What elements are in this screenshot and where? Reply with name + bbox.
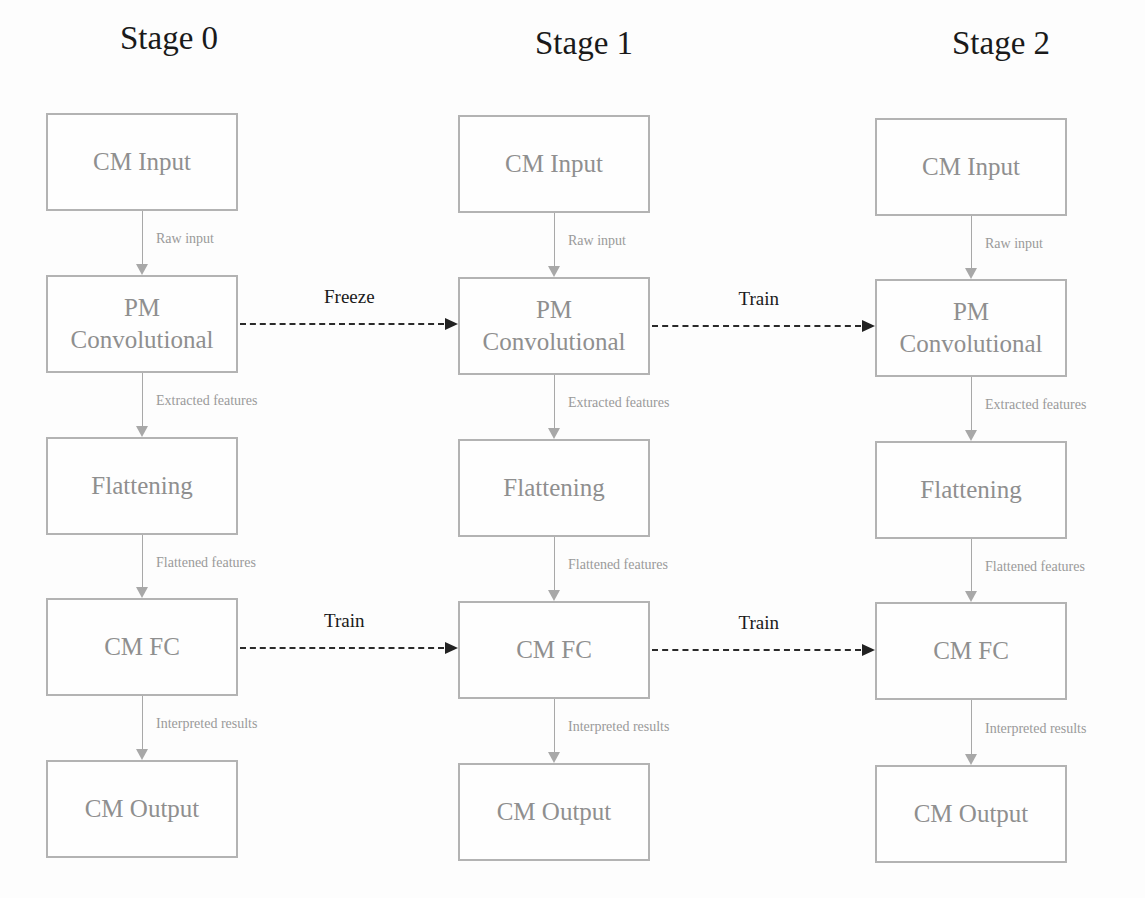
- box-label-line: Convolutional: [899, 328, 1042, 360]
- edge-line: [142, 535, 143, 588]
- box-label-line: CM Output: [85, 793, 200, 825]
- edge-line: [554, 537, 555, 591]
- box-label: CM Output: [497, 796, 612, 828]
- box-label-line: PM: [482, 294, 625, 326]
- box-label: Flattening: [503, 472, 604, 504]
- box-label: CM Output: [914, 798, 1029, 830]
- box-label: CM FC: [104, 631, 180, 663]
- stage-0-box-cm-input: CM Input: [46, 113, 238, 211]
- stage-title-2: Stage 2: [952, 25, 1050, 62]
- arrow-down-icon: [136, 587, 148, 598]
- arrow-down-icon: [965, 754, 977, 765]
- box-label-line: CM Input: [505, 148, 603, 180]
- box-label-line: Flattening: [503, 472, 604, 504]
- box-label-line: CM Input: [93, 146, 191, 178]
- edge-label: Raw input: [985, 236, 1043, 252]
- edge-label: Extracted features: [156, 393, 257, 409]
- edge-label: Flattened features: [985, 559, 1085, 575]
- transition-label: Train: [324, 610, 364, 632]
- transition-line: [652, 325, 861, 327]
- box-label: CM Input: [505, 148, 603, 180]
- arrow-down-icon: [548, 752, 560, 763]
- box-label: PMConvolutional: [482, 294, 625, 358]
- transition-line: [240, 323, 444, 325]
- stage-title-0: Stage 0: [120, 20, 218, 57]
- transition-line: [652, 649, 861, 651]
- edge-line: [142, 373, 143, 427]
- box-label-line: CM FC: [104, 631, 180, 663]
- edge-line: [554, 375, 555, 429]
- edge-label: Interpreted results: [568, 719, 669, 735]
- stage-title-1: Stage 1: [535, 25, 633, 62]
- arrow-right-icon: [862, 644, 875, 656]
- arrow-down-icon: [965, 591, 977, 602]
- box-label: CM Output: [85, 793, 200, 825]
- box-label: CM FC: [933, 635, 1009, 667]
- arrow-down-icon: [136, 426, 148, 437]
- edge-label: Raw input: [568, 233, 626, 249]
- edge-line: [971, 700, 972, 755]
- box-label: Flattening: [920, 474, 1021, 506]
- arrow-down-icon: [965, 430, 977, 441]
- edge-label: Extracted features: [568, 395, 669, 411]
- stage-2-box-cm-output: CM Output: [875, 765, 1067, 863]
- box-label-line: Convolutional: [482, 326, 625, 358]
- edge-label: Flattened features: [568, 557, 668, 573]
- box-label: CM FC: [516, 634, 592, 666]
- stage-1-box-pm-convolutional: PMConvolutional: [458, 277, 650, 375]
- transition-line: [240, 647, 444, 649]
- box-label: CM Input: [93, 146, 191, 178]
- stage-0-box-pm-convolutional: PMConvolutional: [46, 275, 238, 373]
- stage-1-box-cm-fc: CM FC: [458, 601, 650, 699]
- stage-2-box-cm-fc: CM FC: [875, 602, 1067, 700]
- stage-2-box-pm-convolutional: PMConvolutional: [875, 279, 1067, 377]
- edge-label: Interpreted results: [156, 716, 257, 732]
- edge-label: Raw input: [156, 231, 214, 247]
- arrow-down-icon: [548, 428, 560, 439]
- edge-label: Interpreted results: [985, 721, 1086, 737]
- box-label-line: Flattening: [920, 474, 1021, 506]
- box-label-line: PM: [899, 296, 1042, 328]
- stage-0-box-flattening: Flattening: [46, 437, 238, 535]
- box-label-line: PM: [70, 292, 213, 324]
- transition-label: Freeze: [324, 286, 375, 308]
- arrow-right-icon: [445, 642, 458, 654]
- stage-2-box-cm-input: CM Input: [875, 118, 1067, 216]
- box-label-line: Flattening: [91, 470, 192, 502]
- edge-label: Flattened features: [156, 555, 256, 571]
- arrow-right-icon: [862, 320, 875, 332]
- arrow-down-icon: [548, 590, 560, 601]
- arrow-down-icon: [965, 268, 977, 279]
- edge-line: [971, 216, 972, 269]
- stage-1-box-cm-input: CM Input: [458, 115, 650, 213]
- edge-line: [971, 539, 972, 592]
- box-label: CM Input: [922, 151, 1020, 183]
- edge-line: [142, 211, 143, 265]
- edge-label: Extracted features: [985, 397, 1086, 413]
- box-label-line: CM Output: [914, 798, 1029, 830]
- box-label-line: CM FC: [933, 635, 1009, 667]
- box-label-line: CM Output: [497, 796, 612, 828]
- box-label: PMConvolutional: [899, 296, 1042, 360]
- arrow-right-icon: [445, 318, 458, 330]
- arrow-down-icon: [136, 264, 148, 275]
- stage-0-box-cm-output: CM Output: [46, 760, 238, 858]
- edge-line: [971, 377, 972, 431]
- transition-label: Train: [739, 288, 779, 310]
- arrow-down-icon: [136, 749, 148, 760]
- transition-label: Train: [739, 612, 779, 634]
- stage-1-box-flattening: Flattening: [458, 439, 650, 537]
- box-label: PMConvolutional: [70, 292, 213, 356]
- arrow-down-icon: [548, 266, 560, 277]
- edge-line: [142, 696, 143, 750]
- stage-1-box-cm-output: CM Output: [458, 763, 650, 861]
- stage-2-box-flattening: Flattening: [875, 441, 1067, 539]
- edge-line: [554, 699, 555, 753]
- stage-0-box-cm-fc: CM FC: [46, 598, 238, 696]
- edge-line: [554, 213, 555, 267]
- box-label: Flattening: [91, 470, 192, 502]
- box-label-line: CM FC: [516, 634, 592, 666]
- box-label-line: Convolutional: [70, 324, 213, 356]
- box-label-line: CM Input: [922, 151, 1020, 183]
